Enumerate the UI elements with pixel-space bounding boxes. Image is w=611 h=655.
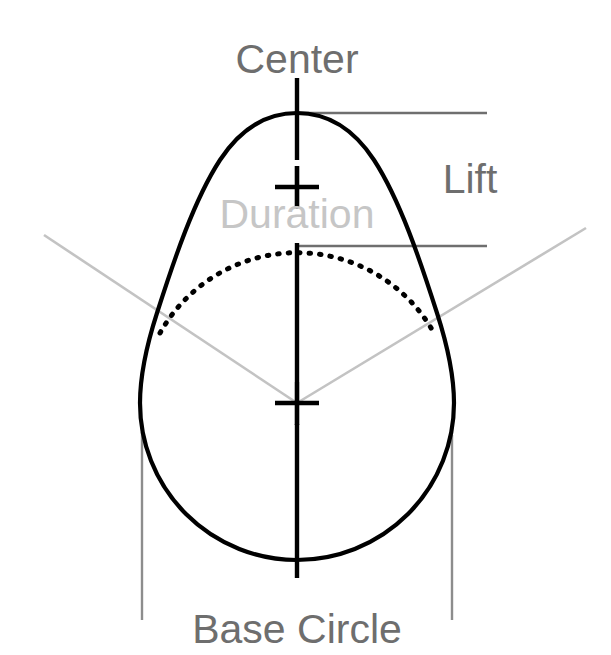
duration-ray-left <box>44 235 297 403</box>
cam-lobe-drawing: Center Lift Duration Base Circle <box>0 0 611 655</box>
label-lift: Lift <box>443 156 498 202</box>
label-base-circle: Base Circle <box>192 606 402 652</box>
duration-ray-right <box>297 228 586 403</box>
cam-lobe-diagram: Center Lift Duration Base Circle <box>0 0 611 655</box>
duration-angle-rays <box>44 228 586 403</box>
label-duration: Duration <box>220 191 375 237</box>
label-center: Center <box>235 36 358 82</box>
center-cross-mark <box>275 382 319 425</box>
